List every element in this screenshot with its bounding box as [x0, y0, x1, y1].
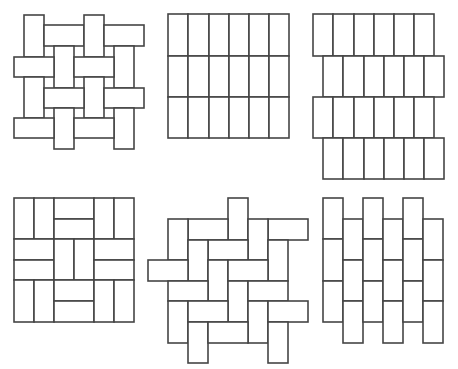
- brick: [74, 118, 114, 138]
- brick: [94, 239, 134, 260]
- brick: [24, 15, 44, 57]
- brick: [14, 118, 54, 138]
- brick: [249, 56, 269, 97]
- brick: [323, 239, 343, 281]
- brick: [268, 219, 308, 240]
- brick: [168, 56, 188, 97]
- pattern-herringbone: [148, 198, 308, 363]
- brick: [323, 138, 343, 179]
- brick: [14, 57, 54, 77]
- brick: [423, 301, 443, 343]
- brick: [333, 14, 354, 56]
- brick: [333, 97, 354, 138]
- brick: [364, 138, 384, 179]
- pattern-basket-weave-interlocking: [14, 15, 144, 149]
- brick: [323, 198, 343, 239]
- brick: [269, 56, 289, 97]
- brick: [364, 56, 384, 97]
- brick: [423, 219, 443, 260]
- brick: [424, 56, 444, 97]
- brick: [188, 322, 208, 363]
- brick: [94, 280, 114, 322]
- brick: [54, 108, 74, 149]
- brick: [209, 97, 229, 138]
- brick: [168, 14, 188, 56]
- brick: [423, 260, 443, 301]
- brick: [114, 46, 134, 88]
- brick: [84, 77, 104, 118]
- brick: [188, 97, 209, 138]
- brick: [404, 138, 424, 179]
- brick: [374, 14, 394, 56]
- brick: [188, 56, 209, 97]
- brick: [54, 219, 94, 239]
- brick: [114, 280, 134, 322]
- brick: [403, 239, 423, 281]
- brick: [343, 219, 363, 260]
- brick: [209, 56, 229, 97]
- brick: [343, 56, 364, 97]
- brick: [34, 198, 54, 239]
- brick: [269, 14, 289, 56]
- brick: [323, 281, 343, 322]
- brick: [313, 97, 333, 138]
- brick: [104, 88, 144, 108]
- brick: [188, 219, 228, 240]
- brick: [208, 240, 248, 260]
- brick: [14, 239, 54, 260]
- brick: [384, 138, 404, 179]
- pattern-basket-weave-parquet: [14, 198, 134, 322]
- brick: [343, 301, 363, 343]
- brick: [249, 14, 269, 56]
- brick: [249, 97, 269, 138]
- brick: [383, 301, 403, 343]
- brick: [188, 14, 209, 56]
- brick: [248, 219, 268, 260]
- brick: [384, 56, 404, 97]
- brick: [313, 14, 333, 56]
- brick: [414, 97, 434, 138]
- brick: [363, 239, 383, 281]
- brick: [343, 260, 363, 301]
- brick: [323, 56, 343, 97]
- brick: [394, 14, 414, 56]
- brick: [168, 281, 208, 301]
- brick: [84, 15, 104, 57]
- brick: [404, 56, 424, 97]
- brick: [363, 198, 383, 239]
- brick: [208, 260, 228, 301]
- brick: [14, 198, 34, 239]
- brick: [74, 57, 114, 77]
- brick: [54, 280, 94, 301]
- brick-patterns-figure: [0, 0, 458, 369]
- brick: [168, 301, 188, 343]
- brick: [403, 198, 423, 239]
- brick: [24, 77, 44, 118]
- brick: [229, 14, 249, 56]
- brick: [188, 240, 208, 281]
- brick: [229, 56, 249, 97]
- brick: [343, 138, 364, 179]
- pattern-running-bond-offset-rows: [313, 14, 444, 179]
- brick: [74, 239, 94, 280]
- brick: [94, 260, 134, 280]
- brick: [268, 240, 288, 281]
- brick: [188, 301, 228, 322]
- brick: [114, 198, 134, 239]
- brick: [104, 25, 144, 46]
- brick: [414, 14, 434, 56]
- brick: [94, 198, 114, 239]
- brick: [44, 25, 84, 46]
- brick: [394, 97, 414, 138]
- brick: [54, 239, 74, 280]
- brick: [34, 280, 54, 322]
- brick: [114, 108, 134, 149]
- brick: [228, 260, 268, 281]
- brick: [228, 281, 248, 322]
- brick: [383, 260, 403, 301]
- brick: [14, 260, 54, 280]
- pattern-stack-bond-offset-columns: [323, 198, 443, 343]
- brick: [168, 97, 188, 138]
- brick: [268, 322, 288, 363]
- brick: [168, 219, 188, 260]
